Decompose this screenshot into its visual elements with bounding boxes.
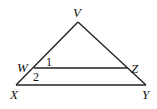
label-x: X bbox=[9, 87, 19, 102]
angle-2-label: 2 bbox=[33, 70, 39, 84]
segment-vx bbox=[16, 22, 78, 85]
triangle-diagram: V W Z X Y 1 2 bbox=[0, 0, 157, 109]
label-v: V bbox=[73, 5, 83, 20]
label-w: W bbox=[17, 60, 29, 75]
angle-1-label: 1 bbox=[46, 55, 52, 69]
label-z: Z bbox=[131, 61, 139, 76]
label-y: Y bbox=[142, 87, 151, 102]
